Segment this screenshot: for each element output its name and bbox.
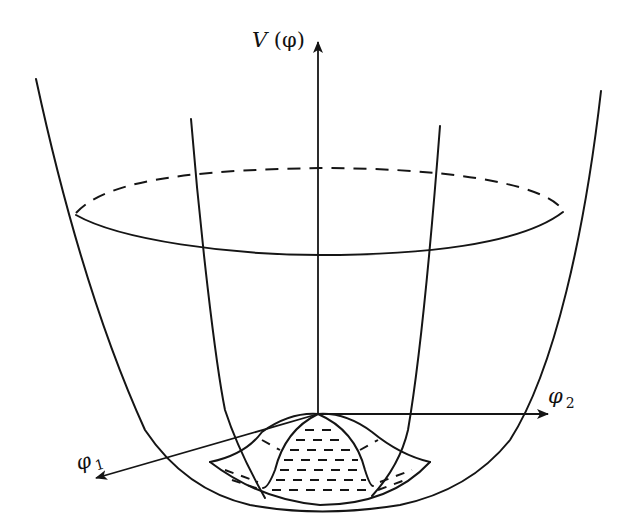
v-argument: (φ) xyxy=(274,28,305,52)
phi1-label: φ1 xyxy=(74,447,105,474)
phi2-subscript: 2 xyxy=(566,395,575,411)
phi2-symbol: φ xyxy=(548,384,563,408)
potential-diagram xyxy=(0,0,631,523)
trough-hatching xyxy=(225,430,412,490)
phi2-label: φ2 xyxy=(548,386,575,407)
level-ellipse-front xyxy=(76,212,563,255)
v-symbol: V xyxy=(252,28,267,52)
v-axis-label: V (φ) xyxy=(252,30,305,51)
level-ellipse-back xyxy=(76,168,563,213)
